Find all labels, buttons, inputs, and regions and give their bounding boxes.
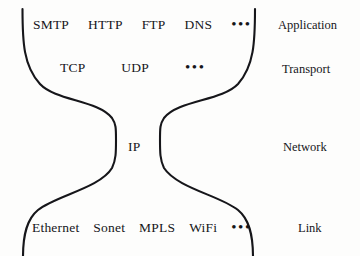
protocol-smtp: SMTP — [33, 17, 69, 33]
hourglass-left-curve — [23, 9, 117, 256]
layer-row-application: SMTP HTTP FTP DNS ••• — [33, 17, 252, 33]
layer-name-transport: Transport — [282, 62, 330, 77]
link-ellipsis-icon: ••• — [231, 220, 252, 235]
protocol-udp: UDP — [121, 60, 149, 76]
application-ellipsis-icon: ••• — [231, 17, 252, 32]
layer-row-transport: TCP UDP ••• — [60, 60, 206, 76]
protocol-stack-diagram: SMTP HTTP FTP DNS ••• TCP UDP ••• IP Eth… — [0, 0, 360, 256]
protocol-sonet: Sonet — [93, 220, 125, 236]
layer-row-link: Ethernet Sonet MPLS WiFi ••• — [32, 220, 252, 236]
layer-name-application: Application — [278, 18, 337, 33]
protocol-wifi: WiFi — [189, 220, 217, 236]
layer-row-network: IP — [128, 139, 140, 155]
protocol-ftp: FTP — [142, 17, 166, 33]
layer-name-link: Link — [298, 221, 322, 236]
protocol-tcp: TCP — [60, 60, 85, 76]
hourglass-outline-icon — [0, 0, 360, 256]
protocol-mpls: MPLS — [139, 220, 175, 236]
protocol-ip: IP — [128, 139, 140, 155]
protocol-ethernet: Ethernet — [32, 220, 79, 236]
protocol-dns: DNS — [185, 17, 213, 33]
layer-name-network: Network — [283, 140, 327, 155]
protocol-http: HTTP — [88, 17, 123, 33]
transport-ellipsis-icon: ••• — [185, 60, 206, 75]
